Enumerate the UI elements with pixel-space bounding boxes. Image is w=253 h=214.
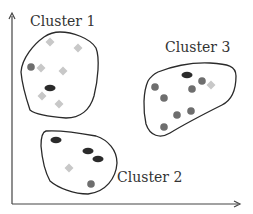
cluster-3-label: Cluster 3 (165, 39, 230, 55)
light-diamond-point (207, 81, 216, 90)
cluster-2-label: Cluster 2 (117, 169, 182, 185)
gray-circle-point (87, 180, 95, 188)
gray-circle-point (27, 63, 35, 71)
gray-circle-point (151, 83, 159, 91)
dark-ellipse-point (182, 72, 193, 78)
dark-ellipse-point (93, 156, 104, 162)
gray-circle-point (198, 77, 206, 85)
dark-ellipse-point (83, 148, 94, 154)
cluster-diagram: Cluster 1 Cluster 2 Cluster 3 (0, 0, 253, 214)
gray-circle-point (173, 111, 181, 119)
data-points (27, 38, 215, 188)
light-diamond-point (74, 44, 83, 53)
light-diamond-point (65, 164, 74, 173)
light-diamond-point (59, 67, 68, 76)
cluster-1-label: Cluster 1 (30, 13, 95, 29)
light-diamond-point (37, 64, 46, 73)
dark-ellipse-point (45, 85, 56, 91)
dark-ellipse-point (51, 137, 62, 143)
gray-circle-point (187, 107, 195, 115)
light-diamond-point (46, 38, 55, 47)
light-diamond-point (55, 100, 64, 109)
gray-circle-point (188, 85, 196, 93)
light-diamond-point (38, 92, 47, 101)
gray-circle-point (160, 94, 168, 102)
gray-circle-point (160, 123, 168, 131)
